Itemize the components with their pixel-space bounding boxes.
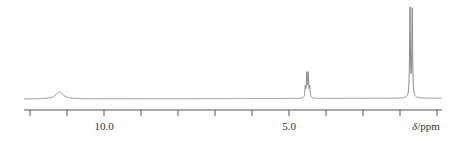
- x-axis-label-unit: /ppm: [417, 120, 440, 132]
- x-axis-label: δ/ppm: [412, 120, 440, 132]
- x-axis-tick-label: 5.0: [282, 120, 296, 132]
- x-axis-tick-labels: 10.05.0: [94, 120, 296, 132]
- x-axis-tick-label: 10.0: [94, 120, 114, 132]
- spectrum-trace: [24, 7, 442, 99]
- nmr-spectrum-chart: 10.05.0 δ/ppm: [0, 0, 466, 142]
- x-axis-ticks: [30, 110, 437, 116]
